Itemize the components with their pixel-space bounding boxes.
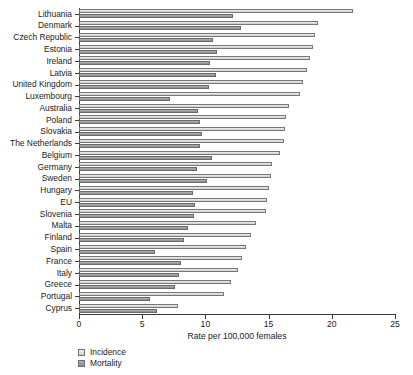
bar-incidence <box>79 209 266 213</box>
bar-mortality <box>79 144 200 148</box>
category-label: Portugal <box>0 290 76 302</box>
legend-label: Mortality <box>90 359 122 367</box>
bar-group <box>79 243 395 255</box>
category-label: EU <box>0 196 76 208</box>
y-axis-tick <box>75 190 79 191</box>
y-axis-tick <box>75 120 79 121</box>
bar-incidence <box>79 139 284 143</box>
y-axis-tick <box>75 49 79 50</box>
bar-group <box>79 149 395 161</box>
category-label: France <box>0 255 76 267</box>
bar-group <box>79 267 395 279</box>
bar-mortality <box>79 167 197 171</box>
bar-mortality <box>79 191 193 195</box>
x-axis-tick-label: 10 <box>201 320 211 329</box>
plot-area <box>79 8 395 314</box>
category-label: Estonia <box>0 43 76 55</box>
y-axis-tick <box>75 249 79 250</box>
bar-incidence <box>79 233 251 237</box>
y-axis-tick <box>75 108 79 109</box>
bar-mortality <box>79 132 202 136</box>
bar-mortality <box>79 261 181 265</box>
bar-group <box>79 290 395 302</box>
bar-incidence <box>79 127 285 131</box>
y-axis-tick <box>75 143 79 144</box>
x-axis-tick-label: 25 <box>390 320 400 329</box>
category-label: Slovenia <box>0 208 76 220</box>
y-axis-tick <box>75 14 79 15</box>
bar-mortality <box>79 85 209 89</box>
y-axis-tick <box>75 61 79 62</box>
bar-incidence <box>79 221 256 225</box>
bar-group <box>79 79 395 91</box>
y-axis-tick <box>75 26 79 27</box>
category-label: Lithuania <box>0 8 76 20</box>
bar-incidence <box>79 256 242 260</box>
y-axis-tick <box>75 167 79 168</box>
bar-group <box>79 137 395 149</box>
bar-mortality <box>79 203 195 207</box>
bar-mortality <box>79 250 155 254</box>
bar-group <box>79 161 395 173</box>
y-axis-tick <box>75 296 79 297</box>
bar-incidence <box>79 186 269 190</box>
y-axis-tick <box>75 261 79 262</box>
bar-incidence <box>79 268 238 272</box>
bar-group <box>79 114 395 126</box>
horizontal-bar-chart: LithuaniaDenmarkCzech RepublicEstoniaIre… <box>0 0 413 375</box>
bar-mortality <box>79 226 188 230</box>
bar-rows <box>79 8 395 314</box>
category-label: Italy <box>0 267 76 279</box>
bar-incidence <box>79 198 267 202</box>
category-label: The Netherlands <box>0 137 76 149</box>
bar-incidence <box>79 115 286 119</box>
y-axis-tick <box>75 202 79 203</box>
bar-mortality <box>79 238 184 242</box>
bar-mortality <box>79 285 175 289</box>
category-label: Ireland <box>0 55 76 67</box>
bar-incidence <box>79 9 353 13</box>
category-label: Poland <box>0 114 76 126</box>
bar-incidence <box>79 174 271 178</box>
bar-group <box>79 302 395 314</box>
bar-incidence <box>79 245 246 249</box>
legend-label: Incidence <box>90 348 126 356</box>
x-axis-tick-label: 15 <box>264 320 274 329</box>
bar-group <box>79 184 395 196</box>
bar-incidence <box>79 280 231 284</box>
bar-mortality <box>79 297 150 301</box>
bar-mortality <box>79 309 157 313</box>
category-label: Malta <box>0 220 76 232</box>
y-axis-tick <box>75 238 79 239</box>
bar-mortality <box>79 156 212 160</box>
bar-mortality <box>79 73 216 77</box>
bar-group <box>79 102 395 114</box>
bar-incidence <box>79 304 178 308</box>
bar-incidence <box>79 151 280 155</box>
bar-group <box>79 67 395 79</box>
y-axis-tick <box>75 73 79 74</box>
bar-group <box>79 279 395 291</box>
bar-group <box>79 43 395 55</box>
bar-mortality <box>79 179 207 183</box>
y-axis-tick <box>75 179 79 180</box>
bar-incidence <box>79 33 315 37</box>
category-label: Finland <box>0 232 76 244</box>
y-axis-tick <box>75 214 79 215</box>
chart-legend: IncidenceMortality <box>78 347 126 369</box>
category-label: Australia <box>0 102 76 114</box>
bar-group <box>79 20 395 32</box>
category-label: Luxembourg <box>0 90 76 102</box>
category-label: Czech Republic <box>0 32 76 44</box>
y-axis-tick <box>75 85 79 86</box>
category-label: Slovakia <box>0 126 76 138</box>
category-label: United Kingdom <box>0 79 76 91</box>
bar-mortality <box>79 14 233 18</box>
bar-incidence <box>79 162 272 166</box>
bar-mortality <box>79 61 210 65</box>
bar-group <box>79 126 395 138</box>
bar-mortality <box>79 38 213 42</box>
category-label: Denmark <box>0 20 76 32</box>
bar-incidence <box>79 68 307 72</box>
y-axis-tick <box>75 96 79 97</box>
